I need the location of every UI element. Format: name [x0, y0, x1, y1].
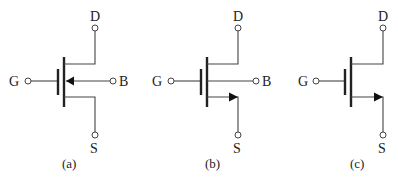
- drain-terminal: [380, 25, 386, 31]
- source-terminal: [92, 132, 98, 138]
- panel-a: G D S B (a): [9, 9, 128, 171]
- gate-label: G: [298, 74, 308, 89]
- source-wire: [64, 97, 95, 132]
- gate-terminal: [168, 78, 174, 84]
- drain-terminal: [235, 25, 241, 31]
- drain-wire: [351, 31, 383, 64]
- caption-a: (a): [62, 156, 76, 171]
- source-arrow-icon: [374, 93, 383, 102]
- caption-c: (c): [350, 156, 364, 171]
- gate-label: G: [9, 74, 19, 89]
- gate-terminal: [313, 78, 319, 84]
- panel-b: G D S B (b): [152, 9, 271, 171]
- drain-label: D: [378, 9, 388, 24]
- drain-terminal: [92, 25, 98, 31]
- source-label: S: [233, 141, 241, 156]
- gate-label: G: [152, 74, 162, 89]
- source-terminal: [380, 132, 386, 138]
- caption-b: (b): [205, 156, 220, 171]
- drain-wire: [64, 31, 95, 64]
- body-arrow-icon: [66, 77, 74, 86]
- body-label: B: [262, 74, 271, 89]
- gate-terminal: [25, 78, 31, 84]
- drain-label: D: [233, 9, 243, 24]
- body-terminal: [110, 78, 116, 84]
- body-terminal: [253, 78, 259, 84]
- body-label: B: [119, 74, 128, 89]
- source-wire: [351, 97, 383, 132]
- source-wire: [207, 97, 238, 132]
- mosfet-symbols-figure: G D S B (a) G D S: [0, 0, 398, 187]
- drain-wire: [207, 31, 238, 64]
- source-arrow-icon: [229, 93, 238, 102]
- source-label: S: [378, 141, 386, 156]
- source-label: S: [90, 141, 98, 156]
- panel-c: G D S (c): [298, 9, 388, 171]
- source-terminal: [235, 132, 241, 138]
- drain-label: D: [90, 9, 100, 24]
